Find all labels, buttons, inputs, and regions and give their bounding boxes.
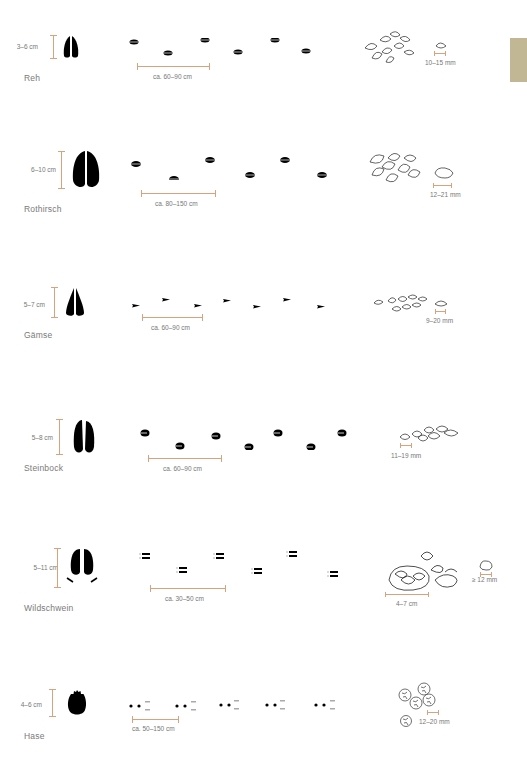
hoof-size-label: 5–11 cm [12,564,58,571]
droppings-measure [427,710,439,715]
trackway-hase-icon [127,698,342,714]
trackway-reh-icon [128,38,318,58]
hoof-size-label: 5–7 cm [0,301,45,308]
hoof-print-gaemse-icon [64,287,86,317]
stride-measure [141,190,216,197]
animal-name: Hase [24,731,45,741]
trackway-wildschwein-icon [138,550,343,580]
droppings-reh-icon [360,28,420,68]
stride-measure [137,63,210,70]
dropping-single-hase-icon [399,714,413,728]
stride-label: ca. 50–150 cm [132,725,175,732]
hoof-size-label: 5–8 cm [7,434,53,441]
hoof-print-reh-icon [62,35,80,59]
animal-name: Gämse [24,330,52,340]
droppings-measure [435,309,446,314]
trackway-steinbock-icon [138,428,353,450]
dropping-single-rothirsch-icon [433,166,455,180]
stride-measure [148,455,222,462]
hoof-size-bar [49,35,56,59]
droppings-rothirsch-icon [368,150,423,192]
paw-print-hase-icon [66,689,88,717]
droppings-size-label: 11–19 mm [391,452,421,459]
hoof-size-label: 3–6 cm [0,43,38,50]
stride-label: ca. 60–90 cm [153,73,192,80]
animal-tracks-page: 3–6 cm Reh ca. 60–90 cm [0,0,527,759]
droppings-single-size-label: ≥ 12 mm [472,576,497,583]
stride-label: ca. 80–150 cm [155,200,198,207]
hoof-size-bar [55,419,62,455]
hoof-print-rothirsch-icon [70,150,102,190]
stride-label: ca. 60–90 cm [151,324,190,331]
droppings-measure [434,51,446,56]
animal-name: Reh [24,73,40,83]
droppings-wildschwein-icon [385,550,471,596]
chapter-tab-marker [510,38,527,82]
dropping-single-reh-icon [435,41,447,50]
droppings-size-label: 4–7 cm [396,600,417,607]
trackway-gaemse-icon [130,296,330,312]
droppings-size-label: 12–21 mm [430,191,461,198]
animal-name: Wildschwein [24,603,73,613]
droppings-gaemse-icon [372,293,432,315]
hoof-size-label: 6–10 cm [10,166,56,173]
hoof-size-bar [48,689,55,717]
droppings-size-label: 9–20 mm [426,317,453,324]
droppings-measure [400,443,412,448]
droppings-size-label: 10–15 mm [425,59,456,66]
trackway-rothirsch-icon [130,155,330,180]
hoof-size-bar [53,548,60,588]
droppings-size-label: 12–20 mm [419,718,450,725]
stride-measure [142,314,203,321]
stride-measure [132,716,179,723]
droppings-measure [433,183,452,188]
hoof-print-steinbock-icon [71,419,97,455]
hoof-size-bar [50,287,57,318]
stride-label: ca. 30–50 cm [165,595,204,602]
dropping-single-gaemse-icon [434,299,448,308]
animal-name: Rothirsch [24,204,62,214]
dropping-single-wildschwein-icon [479,560,493,571]
animal-name: Steinbock [24,463,63,473]
hoof-size-bar [57,151,64,189]
droppings-measure [385,592,429,597]
droppings-hase-icon [396,682,442,712]
hoof-print-wildschwein-icon [64,548,100,588]
hoof-size-label: 4–6 cm [0,701,42,708]
stride-label: ca. 60–90 cm [163,465,202,472]
stride-measure [150,585,226,592]
